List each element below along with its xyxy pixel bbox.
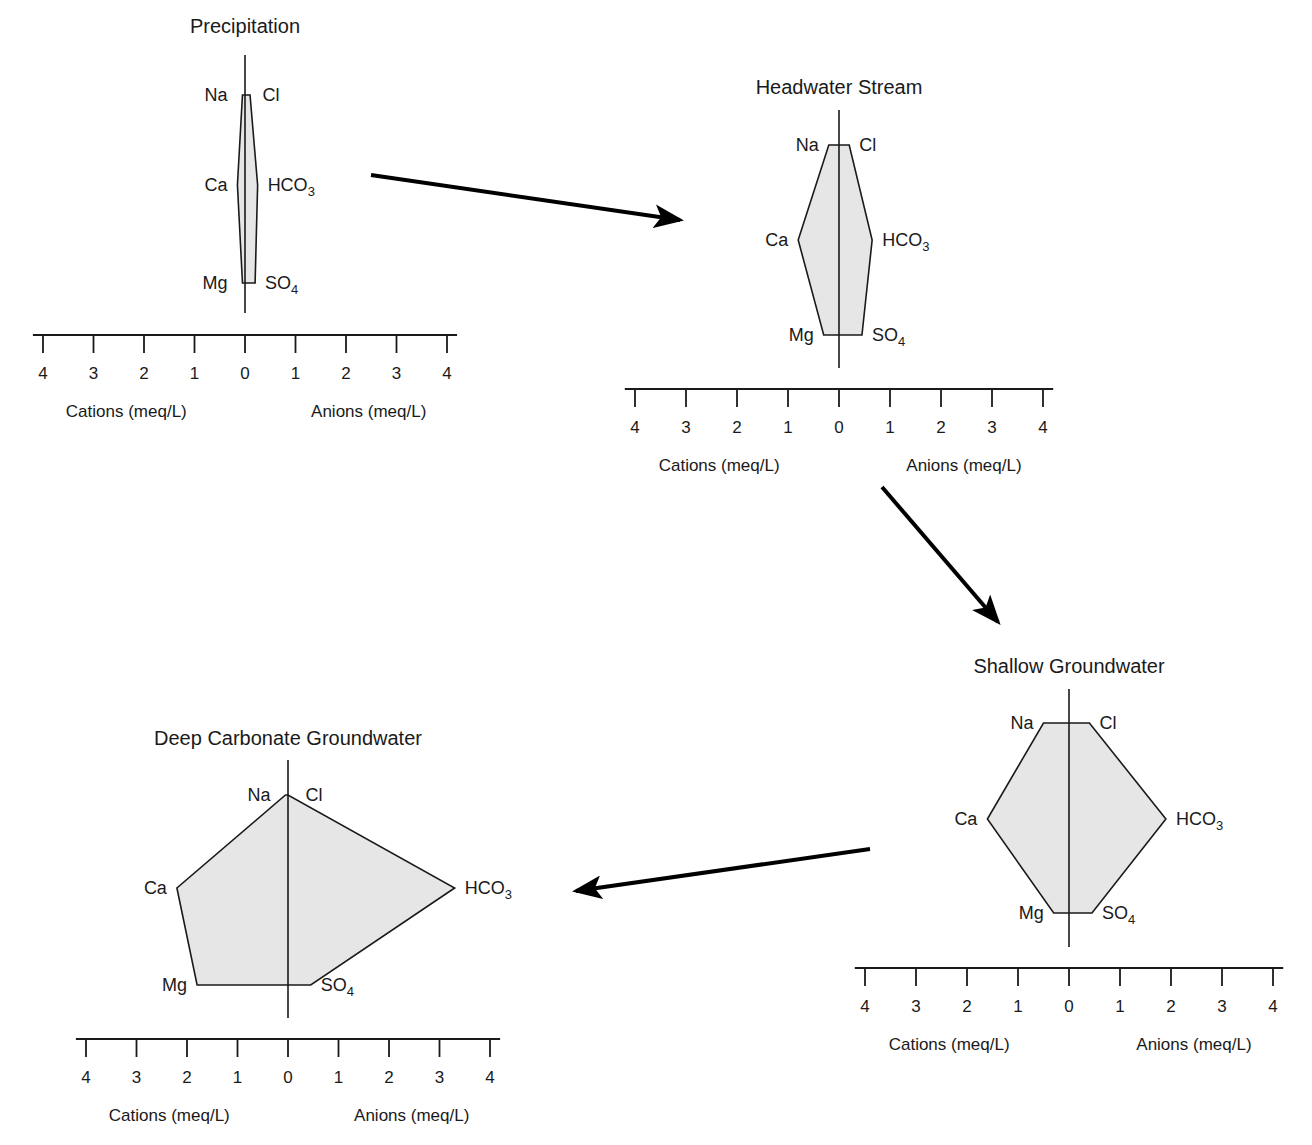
tick-label: 0 xyxy=(240,364,249,383)
tick-label: 1 xyxy=(291,364,300,383)
cations-axis-label: Cations (meq/L) xyxy=(66,402,187,421)
ion-label-mg: Mg xyxy=(162,975,187,995)
ion-label-ca: Ca xyxy=(144,878,168,898)
panel-title: Headwater Stream xyxy=(756,76,923,98)
ion-label-ca: Ca xyxy=(204,175,228,195)
ion-label-hco3: HCO3 xyxy=(268,175,315,199)
tick-label: 3 xyxy=(987,418,996,437)
tick-label: 1 xyxy=(783,418,792,437)
tick-label: 4 xyxy=(1038,418,1047,437)
tick-label: 3 xyxy=(132,1068,141,1087)
arrow-precip-to-headwater xyxy=(371,175,680,220)
tick-label: 4 xyxy=(38,364,47,383)
ion-label-mg: Mg xyxy=(202,273,227,293)
tick-label: 3 xyxy=(911,997,920,1016)
tick-label: 1 xyxy=(1115,997,1124,1016)
tick-label: 2 xyxy=(341,364,350,383)
tick-label: 2 xyxy=(139,364,148,383)
ion-label-cl: Cl xyxy=(1099,713,1116,733)
stiff-polygon xyxy=(798,145,872,335)
ion-label-so4: SO4 xyxy=(321,975,354,999)
tick-label: 1 xyxy=(885,418,894,437)
ion-label-mg: Mg xyxy=(789,325,814,345)
tick-label: 0 xyxy=(834,418,843,437)
tick-label: 3 xyxy=(89,364,98,383)
stiff-diagram-figure: PrecipitationNaClCaHCO3MgSO4432101234Cat… xyxy=(0,0,1312,1145)
meq-axis: 432101234Cations (meq/L)Anions (meq/L) xyxy=(625,389,1053,475)
arrow-shallow-to-deep xyxy=(576,849,870,891)
ion-label-cl: Cl xyxy=(263,85,280,105)
stiff-polygon xyxy=(237,95,257,283)
arrow-headwater-to-shallow xyxy=(882,487,998,622)
anions-axis-label: Anions (meq/L) xyxy=(906,456,1021,475)
ion-label-hco3: HCO3 xyxy=(465,878,512,902)
tick-label: 2 xyxy=(936,418,945,437)
cations-axis-label: Cations (meq/L) xyxy=(889,1035,1010,1054)
anions-axis-label: Anions (meq/L) xyxy=(354,1106,469,1125)
meq-axis: 432101234Cations (meq/L)Anions (meq/L) xyxy=(855,968,1283,1054)
panel-title: Shallow Groundwater xyxy=(973,655,1165,677)
anions-axis-label: Anions (meq/L) xyxy=(1136,1035,1251,1054)
tick-label: 3 xyxy=(681,418,690,437)
ion-label-so4: SO4 xyxy=(265,273,298,297)
stiff-panel-precipitation: PrecipitationNaClCaHCO3MgSO4432101234Cat… xyxy=(33,15,457,421)
ion-label-na: Na xyxy=(796,135,820,155)
tick-label: 1 xyxy=(190,364,199,383)
ion-label-so4: SO4 xyxy=(1102,903,1135,927)
panel-title: Deep Carbonate Groundwater xyxy=(154,727,422,749)
tick-label: 2 xyxy=(182,1068,191,1087)
tick-label: 2 xyxy=(384,1068,393,1087)
tick-label: 4 xyxy=(485,1068,494,1087)
tick-label: 4 xyxy=(630,418,639,437)
ion-label-ca: Ca xyxy=(765,230,789,250)
meq-axis: 432101234Cations (meq/L)Anions (meq/L) xyxy=(76,1039,500,1125)
ion-label-ca: Ca xyxy=(954,809,978,829)
tick-label: 1 xyxy=(233,1068,242,1087)
ion-label-na: Na xyxy=(247,785,271,805)
meq-axis: 432101234Cations (meq/L)Anions (meq/L) xyxy=(33,335,457,421)
ion-label-na: Na xyxy=(204,85,228,105)
stiff-panel-deep-carbonate-groundwater: Deep Carbonate GroundwaterNaClCaHCO3MgSO… xyxy=(76,727,512,1125)
ion-label-cl: Cl xyxy=(859,135,876,155)
tick-label: 0 xyxy=(1064,997,1073,1016)
stiff-polygon xyxy=(987,723,1166,913)
ion-label-mg: Mg xyxy=(1019,903,1044,923)
tick-label: 4 xyxy=(442,364,451,383)
tick-label: 1 xyxy=(1013,997,1022,1016)
tick-label: 4 xyxy=(1268,997,1277,1016)
tick-label: 4 xyxy=(81,1068,90,1087)
ion-label-so4: SO4 xyxy=(872,325,905,349)
tick-label: 0 xyxy=(283,1068,292,1087)
tick-label: 3 xyxy=(1217,997,1226,1016)
cations-axis-label: Cations (meq/L) xyxy=(659,456,780,475)
ion-label-hco3: HCO3 xyxy=(1176,809,1223,833)
tick-label: 3 xyxy=(392,364,401,383)
tick-label: 2 xyxy=(1166,997,1175,1016)
tick-label: 1 xyxy=(334,1068,343,1087)
ion-label-na: Na xyxy=(1010,713,1034,733)
tick-label: 3 xyxy=(435,1068,444,1087)
tick-label: 2 xyxy=(962,997,971,1016)
anions-axis-label: Anions (meq/L) xyxy=(311,402,426,421)
panel-title: Precipitation xyxy=(190,15,300,37)
tick-label: 2 xyxy=(732,418,741,437)
stiff-polygon xyxy=(177,795,455,985)
tick-label: 4 xyxy=(860,997,869,1016)
flow-arrows xyxy=(371,175,998,891)
stiff-panel-shallow-groundwater: Shallow GroundwaterNaClCaHCO3MgSO4432101… xyxy=(855,655,1283,1054)
stiff-panel-headwater-stream: Headwater StreamNaClCaHCO3MgSO4432101234… xyxy=(625,76,1053,475)
ion-label-cl: Cl xyxy=(306,785,323,805)
ion-label-hco3: HCO3 xyxy=(882,230,929,254)
cations-axis-label: Cations (meq/L) xyxy=(109,1106,230,1125)
